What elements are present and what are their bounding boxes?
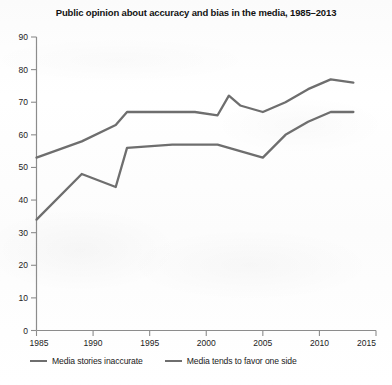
y-tick-label: 0 [23, 326, 28, 336]
plot-area: 0102030405060708090 19851990199520002005… [0, 0, 392, 355]
x-tick-label: 1985 [30, 338, 49, 348]
legend-label: Media tends to favor one side [187, 357, 297, 366]
series-line [37, 79, 354, 157]
x-tick-group: 1985199019952000200520102015 [30, 331, 377, 349]
data-series-group [37, 79, 354, 219]
x-tick-label: 2005 [253, 338, 272, 348]
legend-item-media-stories-inaccurate: Media stories inaccurate [30, 357, 143, 366]
legend-line-swatch-icon [30, 360, 47, 362]
y-tick-label: 60 [19, 130, 29, 140]
x-tick-label: 1995 [140, 338, 159, 348]
line-chart-svg: 0102030405060708090 19851990199520002005… [0, 0, 392, 355]
chart-legend: Media stories inaccurate Media tends to … [30, 357, 297, 366]
x-axis: 1985199019952000200520102015 [30, 331, 377, 349]
chart-page: Public opinion about accuracy and bias i… [0, 0, 392, 385]
y-tick-label: 70 [19, 97, 29, 107]
y-tick-label: 90 [19, 32, 29, 42]
x-tick-label: 2000 [197, 338, 216, 348]
y-axis: 0102030405060708090 [19, 32, 37, 336]
legend-label: Media stories inaccurate [52, 357, 143, 366]
x-tick-label: 2010 [310, 338, 329, 348]
series-line [37, 112, 354, 220]
y-tick-label: 20 [19, 260, 29, 270]
y-tick-label: 50 [19, 162, 29, 172]
x-tick-label: 2015 [357, 338, 376, 348]
y-tick-label: 80 [19, 65, 29, 75]
legend-line-swatch-icon [165, 360, 182, 362]
y-tick-label: 30 [19, 228, 29, 238]
x-tick-label: 1990 [84, 338, 103, 348]
y-tick-label: 10 [19, 293, 29, 303]
y-tick-label: 40 [19, 195, 29, 205]
y-tick-group: 0102030405060708090 [19, 32, 37, 336]
legend-item-media-favors-one-side: Media tends to favor one side [165, 357, 297, 366]
